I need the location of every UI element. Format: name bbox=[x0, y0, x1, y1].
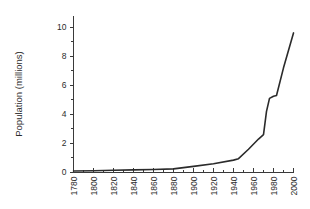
x-tick-label: 1940 bbox=[229, 176, 239, 195]
y-axis-label: Population (millions) bbox=[13, 51, 24, 137]
chart-plot-area: 0246810178018001820184018601880190019201… bbox=[0, 0, 310, 209]
y-tick-label: 10 bbox=[57, 22, 67, 32]
x-tick-label: 1860 bbox=[149, 176, 159, 195]
x-tick-label: 1960 bbox=[249, 176, 259, 195]
x-tick-label: 1980 bbox=[269, 176, 279, 195]
x-tick-label: 1840 bbox=[129, 176, 139, 195]
y-tick-label: 6 bbox=[62, 80, 67, 90]
x-tick-label: 1820 bbox=[109, 176, 119, 195]
x-tick-label: 1780 bbox=[69, 176, 79, 195]
x-tick-label: 2000 bbox=[289, 176, 299, 195]
x-tick-label: 1920 bbox=[209, 176, 219, 195]
y-tick-label: 4 bbox=[62, 109, 67, 119]
x-tick-label: 1880 bbox=[169, 176, 179, 195]
data-series-line-0 bbox=[74, 33, 294, 171]
y-tick-label: 0 bbox=[62, 167, 67, 177]
x-tick-label: 1800 bbox=[89, 176, 99, 195]
y-tick-label: 2 bbox=[62, 138, 67, 148]
x-tick-label: 1900 bbox=[189, 176, 199, 195]
y-tick-label: 8 bbox=[62, 51, 67, 61]
population-growth-chart: 0246810178018001820184018601880190019201… bbox=[0, 0, 310, 209]
